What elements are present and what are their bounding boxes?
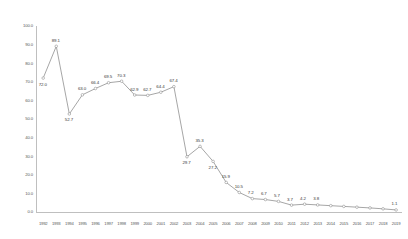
data-point-label: 63.0 xyxy=(78,86,86,91)
data-point-label: 67.4 xyxy=(169,78,177,83)
data-point-label: 15.9 xyxy=(222,174,230,179)
data-point-label: 3.7 xyxy=(287,197,293,202)
data-point-marker xyxy=(94,87,97,90)
data-point-label: 7.2 xyxy=(248,190,254,195)
data-point-label: 27.2 xyxy=(209,165,217,170)
data-point-marker xyxy=(369,207,372,210)
data-point-label: 72.0 xyxy=(39,82,47,87)
data-point-marker xyxy=(68,113,71,116)
data-point-marker xyxy=(264,198,267,201)
data-point-label: 52.7 xyxy=(65,117,73,122)
data-point-marker xyxy=(303,203,306,206)
data-point-marker xyxy=(42,77,45,80)
data-point-marker xyxy=(107,81,110,84)
line-chart: 0.010.020.030.040.050.060.070.080.090.01… xyxy=(0,0,408,239)
data-point-marker xyxy=(55,45,58,48)
data-point-marker xyxy=(277,200,280,203)
data-point-marker xyxy=(199,145,202,148)
data-point-marker xyxy=(238,191,241,194)
data-point-marker xyxy=(160,91,163,94)
data-point-label: 5.7 xyxy=(274,193,280,198)
data-point-marker xyxy=(382,208,385,211)
data-point-marker xyxy=(290,204,293,207)
data-point-marker xyxy=(329,204,332,207)
data-point-label: 66.4 xyxy=(91,80,99,85)
data-line xyxy=(43,46,396,210)
data-point-label: 4.2 xyxy=(300,196,306,201)
data-point-marker xyxy=(343,205,346,208)
data-point-label: 62.9 xyxy=(130,87,138,92)
data-point-marker xyxy=(133,94,136,97)
data-point-label: 70.3 xyxy=(117,73,125,78)
data-point-marker xyxy=(146,94,149,97)
data-point-marker xyxy=(81,94,84,97)
data-point-label: 3.8 xyxy=(313,196,319,201)
data-point-marker xyxy=(251,197,254,200)
data-point-marker xyxy=(186,155,189,158)
data-point-marker xyxy=(225,181,228,184)
data-point-marker xyxy=(212,160,215,163)
data-point-marker xyxy=(173,85,176,88)
data-point-label: 62.7 xyxy=(143,87,151,92)
data-point-marker xyxy=(120,80,123,83)
data-point-label: 35.3 xyxy=(196,138,204,143)
data-point-label: 29.7 xyxy=(182,160,190,165)
data-point-label: 10.5 xyxy=(235,184,243,189)
data-point-label: 6.7 xyxy=(261,191,267,196)
plot-area xyxy=(0,0,408,239)
data-point-marker xyxy=(395,209,398,212)
data-point-label: 64.4 xyxy=(156,84,164,89)
data-point-label: 1.1 xyxy=(392,201,398,206)
data-point-label: 69.5 xyxy=(104,74,112,79)
data-point-marker xyxy=(316,204,319,207)
data-point-label: 89.1 xyxy=(52,38,60,43)
data-point-markers xyxy=(42,45,398,211)
data-point-marker xyxy=(356,206,359,209)
